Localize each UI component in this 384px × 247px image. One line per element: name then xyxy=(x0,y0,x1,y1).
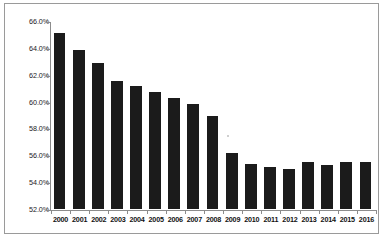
bar xyxy=(168,98,180,209)
x-axis-tick-label: 2011 xyxy=(261,215,280,224)
x-axis-tick-mark xyxy=(89,211,90,214)
x-axis-tick-mark xyxy=(242,211,243,214)
bar xyxy=(226,153,238,209)
x-axis-tick-label: 2004 xyxy=(127,215,146,224)
x-axis-tick-label: 2012 xyxy=(280,215,299,224)
x-axis-tick-mark xyxy=(376,211,377,214)
bar xyxy=(130,86,142,209)
x-axis-tick-mark xyxy=(338,211,339,214)
y-axis-tick: 52.0% xyxy=(5,210,57,211)
bar xyxy=(360,162,372,209)
x-axis-tick-mark xyxy=(280,211,281,214)
x-axis-tick-label: 2010 xyxy=(242,215,261,224)
x-axis-tick-mark xyxy=(357,211,358,214)
bar xyxy=(92,63,104,209)
x-axis-tick-label: 2006 xyxy=(166,215,185,224)
chart-frame: 52.0%54.0%56.0%58.0%60.0%62.0%64.0%66.0%… xyxy=(4,3,379,234)
y-axis-tick-mark xyxy=(46,210,50,211)
bar xyxy=(302,162,314,209)
x-axis-tick-label: 2000 xyxy=(51,215,70,224)
x-axis-tick-mark xyxy=(185,211,186,214)
chart-plot-wrapper: 52.0%54.0%56.0%58.0%60.0%62.0%64.0%66.0%… xyxy=(5,4,378,233)
x-axis-tick-label: 2007 xyxy=(185,215,204,224)
bar-series-area xyxy=(50,22,376,209)
bar xyxy=(73,50,85,209)
x-axis-tick-label: 2001 xyxy=(70,215,89,224)
x-axis-tick-mark xyxy=(319,211,320,214)
x-axis-tick-mark xyxy=(70,211,71,214)
x-axis-tick-mark xyxy=(261,211,262,214)
x-axis-tick-mark xyxy=(223,211,224,214)
x-axis-tick-label: 2016 xyxy=(357,215,376,224)
bar xyxy=(283,169,295,209)
bar xyxy=(149,92,161,210)
x-axis-tick-label: 2003 xyxy=(108,215,127,224)
artifact-speck xyxy=(227,135,229,137)
x-axis-tick-label: 2014 xyxy=(319,215,338,224)
x-axis-tick-mark xyxy=(166,211,167,214)
x-axis-tick-mark xyxy=(108,211,109,214)
x-axis-tick-label: 2005 xyxy=(147,215,166,224)
x-axis-line xyxy=(50,210,377,211)
bar xyxy=(111,81,123,209)
bar xyxy=(321,165,333,209)
bar xyxy=(187,104,199,209)
x-axis-tick-label: 2015 xyxy=(338,215,357,224)
x-axis-tick-mark xyxy=(127,211,128,214)
bar xyxy=(54,33,66,209)
bar xyxy=(340,162,352,209)
bar xyxy=(245,164,257,209)
x-axis-tick-mark xyxy=(147,211,148,214)
x-axis-tick-label: 2009 xyxy=(223,215,242,224)
x-axis-tick-mark xyxy=(300,211,301,214)
x-axis-tick-label: 2013 xyxy=(300,215,319,224)
bar xyxy=(264,167,276,209)
x-axis-tick-mark xyxy=(204,211,205,214)
x-axis-tick-label: 2002 xyxy=(89,215,108,224)
x-axis-tick-mark xyxy=(51,211,52,214)
x-axis-tick-label: 2008 xyxy=(204,215,223,224)
bar xyxy=(207,116,219,209)
